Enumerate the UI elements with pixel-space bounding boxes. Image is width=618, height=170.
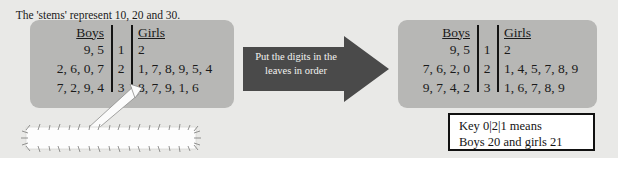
stem-value-right-2: 2 [477, 61, 497, 77]
boys-leaves-left-2: 2, 6, 0, 7 [30, 61, 111, 77]
boys-leaves-right-1: 9, 5 [398, 42, 477, 58]
stem-value-right-3: 3 [477, 80, 497, 96]
stem-and-leaf-panel-ordered: Boys Girls 9, 5 1 2 7, 6, 2, 0 2 1, 4, 5… [398, 20, 597, 108]
girls-leaves-right-1: 2 [497, 42, 597, 58]
stem-girls-divider-left [131, 25, 133, 92]
boys-stem-divider-left [111, 25, 113, 92]
boys-leaves-right-3: 9, 7, 4, 2 [398, 80, 477, 96]
boys-header-left: Boys [76, 25, 104, 40]
key-box: Key 0|2|1 means Boys 20 and girls 21 [448, 113, 595, 151]
girls-leaves-right-2: 1, 4, 5, 7, 8, 9 [497, 61, 597, 77]
arrow-label-line2: leaves in order [248, 64, 344, 78]
girls-leaves-left-1: 2 [131, 42, 234, 58]
stem-girls-divider-right [497, 25, 499, 92]
stem-leaf-grid-right: Boys Girls 9, 5 1 2 7, 6, 2, 0 2 1, 4, 5… [398, 20, 597, 108]
stem-value-right-1: 1 [477, 42, 497, 58]
boys-header-right: Boys [442, 25, 470, 40]
stem-value-left-1: 1 [111, 42, 131, 58]
key-line-2: Boys 20 and girls 21 [459, 134, 593, 150]
stem-value-left-2: 2 [111, 61, 131, 77]
key-line-1: Key 0|2|1 means [459, 118, 593, 134]
callout-starburst [16, 122, 206, 154]
girls-leaves-left-2: 1, 7, 8, 9, 5, 4 [131, 61, 234, 77]
boys-stem-divider-right [477, 25, 479, 92]
bottom-white-strip [0, 158, 618, 170]
girls-header-right: Girls [504, 25, 531, 40]
boys-leaves-left-1: 9, 5 [30, 42, 111, 58]
girls-leaves-left-3: 8, 7, 9, 1, 6 [131, 80, 234, 96]
arrow-label-line1: Put the digits in the [248, 50, 344, 64]
arrow-label: Put the digits in the leaves in order [248, 50, 344, 78]
girls-header-left: Girls [138, 25, 165, 40]
boys-leaves-right-2: 7, 6, 2, 0 [398, 61, 477, 77]
callout-text: The 'stems' represent 10, 20 and 30. [12, 8, 184, 23]
stem-and-leaf-figure: Boys Girls 9, 5 1 2 2, 6, 0, 7 2 1, 7, 8… [0, 0, 618, 170]
girls-leaves-right-3: 1, 6, 7, 8, 9 [497, 80, 597, 96]
